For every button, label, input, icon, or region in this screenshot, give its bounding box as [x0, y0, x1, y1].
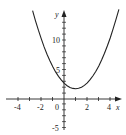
y-tick-label-m5: -5: [52, 124, 59, 133]
chart-svg: -4 -2 0 2 4 x y 10 5 -5: [0, 0, 126, 135]
x-tick-label-4: 4: [107, 103, 111, 112]
x-axis-arrow-icon: [115, 97, 122, 102]
y-axis-label: y: [54, 10, 59, 19]
y-tick-label-5: 5: [56, 66, 60, 75]
y-axis-arrow-icon: [62, 10, 67, 17]
parabola-plot: [33, 9, 119, 88]
x-tick-label-m2: -2: [37, 103, 44, 112]
x-tick-label-m4: -4: [14, 103, 21, 112]
y-tick-label-10: 10: [52, 36, 60, 45]
origin-label: 0: [55, 103, 59, 112]
x-axis-label: x: [115, 103, 120, 112]
x-tick-label-2: 2: [85, 103, 89, 112]
